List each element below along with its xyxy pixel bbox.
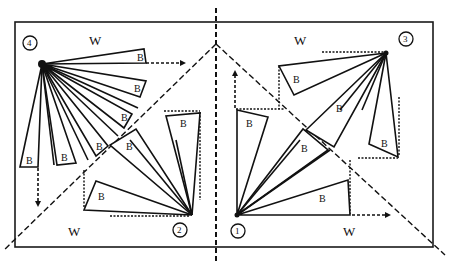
q1-hub (235, 213, 240, 218)
q4-number: 4 (27, 38, 32, 48)
quadrant-3: B B B W 3 (236, 32, 413, 158)
q4-blade-1 (42, 49, 146, 64)
q4-blade-label: B (137, 52, 144, 63)
q1-arrowhead-up (232, 70, 238, 76)
q4-blade-label: B (121, 112, 128, 123)
q4-blade-label: B (96, 141, 103, 152)
q4-arrowhead-right (180, 60, 186, 66)
diagram-canvas: B B B B B B W 4 B B B W 2 (0, 0, 449, 263)
q2-blade-label: B (180, 118, 187, 129)
q3-blade-label: B (293, 74, 300, 85)
q1-blade-label: B (301, 143, 308, 154)
q2-number: 2 (177, 225, 182, 235)
q1-blade-label: B (246, 118, 253, 129)
q2-blade-label: B (98, 191, 105, 202)
q3-region-label: W (294, 33, 307, 48)
q4-region-label: W (89, 33, 102, 48)
q1-region-label: W (343, 224, 356, 239)
q4-blade-label: B (61, 152, 68, 163)
q4-hub (38, 60, 46, 68)
q3-blade-label: B (381, 138, 388, 149)
q1-blade-label: B (319, 193, 326, 204)
q4-blade-label: B (26, 155, 33, 166)
quadrant-1: B B B W 1 (231, 70, 391, 239)
q3-hub (384, 51, 389, 56)
q1-number: 1 (235, 226, 240, 236)
q2-region-label: W (68, 224, 81, 239)
q1-arrowhead-right (385, 212, 391, 218)
q2-blade-label: B (126, 141, 133, 152)
q3-blade-label: B (336, 103, 343, 114)
q4-blade-label: B (134, 83, 141, 94)
q4-arrowhead-down (35, 201, 41, 207)
q4-blade-6 (20, 64, 42, 167)
q3-number: 3 (403, 34, 408, 44)
